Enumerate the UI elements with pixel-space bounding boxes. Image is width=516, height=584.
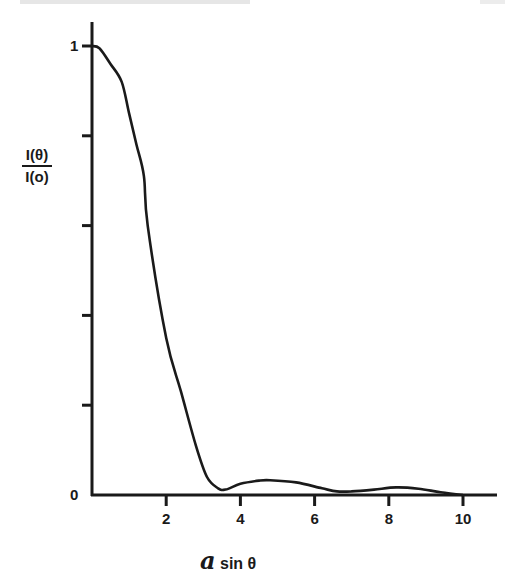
intensity-curve — [92, 46, 463, 495]
x-ticks: 246810 — [162, 495, 471, 527]
y-tick-label: 1 — [70, 37, 78, 54]
y-label-denominator: I(o) — [22, 167, 52, 186]
chart-canvas: 01 246810 — [0, 0, 516, 584]
x-tick-label: 4 — [236, 510, 245, 527]
x-label-text: sin θ — [220, 555, 256, 572]
y-axis-label: I(θ) I(o) — [22, 146, 52, 186]
y-ticks: 01 — [70, 37, 92, 503]
y-tick-label: 0 — [70, 486, 78, 503]
x-tick-label: 10 — [455, 510, 472, 527]
x-axis-label: a sin θ — [200, 546, 340, 575]
y-label-numerator: I(θ) — [22, 146, 52, 167]
x-tick-label: 6 — [310, 510, 318, 527]
x-label-symbol: a — [200, 546, 216, 575]
x-tick-label: 8 — [385, 510, 393, 527]
x-tick-label: 2 — [162, 510, 170, 527]
